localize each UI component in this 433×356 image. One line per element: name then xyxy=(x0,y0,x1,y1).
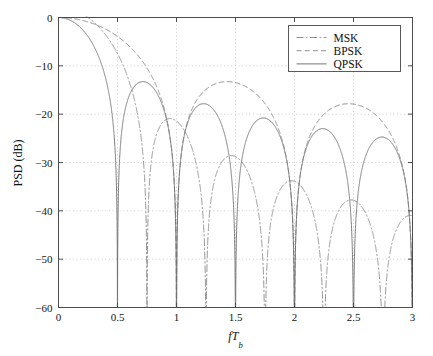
y-tick-label: −40 xyxy=(35,205,53,217)
y-tick-label: −10 xyxy=(35,60,53,72)
x-tick-label: 0.5 xyxy=(111,311,125,323)
legend-label-bpsk: BPSK xyxy=(334,45,363,57)
legend-label-msk: MSK xyxy=(334,32,360,44)
x-tick-label: 0 xyxy=(56,311,62,323)
y-tick-label: −60 xyxy=(35,302,53,314)
y-tick-label: −20 xyxy=(35,108,53,120)
y-axis-label: PSD (dB) xyxy=(11,139,25,186)
y-tick-label: −50 xyxy=(35,253,53,265)
y-tick-label: −30 xyxy=(35,157,53,169)
psd-chart-svg: 00.511.522.53 0−10−20−30−40−50−60 fTb PS… xyxy=(0,0,433,356)
legend-label-qpsk: QPSK xyxy=(334,58,364,70)
x-tick-label: 3 xyxy=(410,311,416,323)
x-tick-label: 1.5 xyxy=(229,311,243,323)
y-tick-label: 0 xyxy=(47,12,53,24)
chart-legend: MSKBPSKQPSK xyxy=(289,26,401,72)
psd-figure: 00.511.522.53 0−10−20−30−40−50−60 fTb PS… xyxy=(0,0,433,356)
x-tick-label: 2 xyxy=(292,311,298,323)
x-tick-label: 2.5 xyxy=(347,311,361,323)
x-tick-label: 1 xyxy=(174,311,180,323)
